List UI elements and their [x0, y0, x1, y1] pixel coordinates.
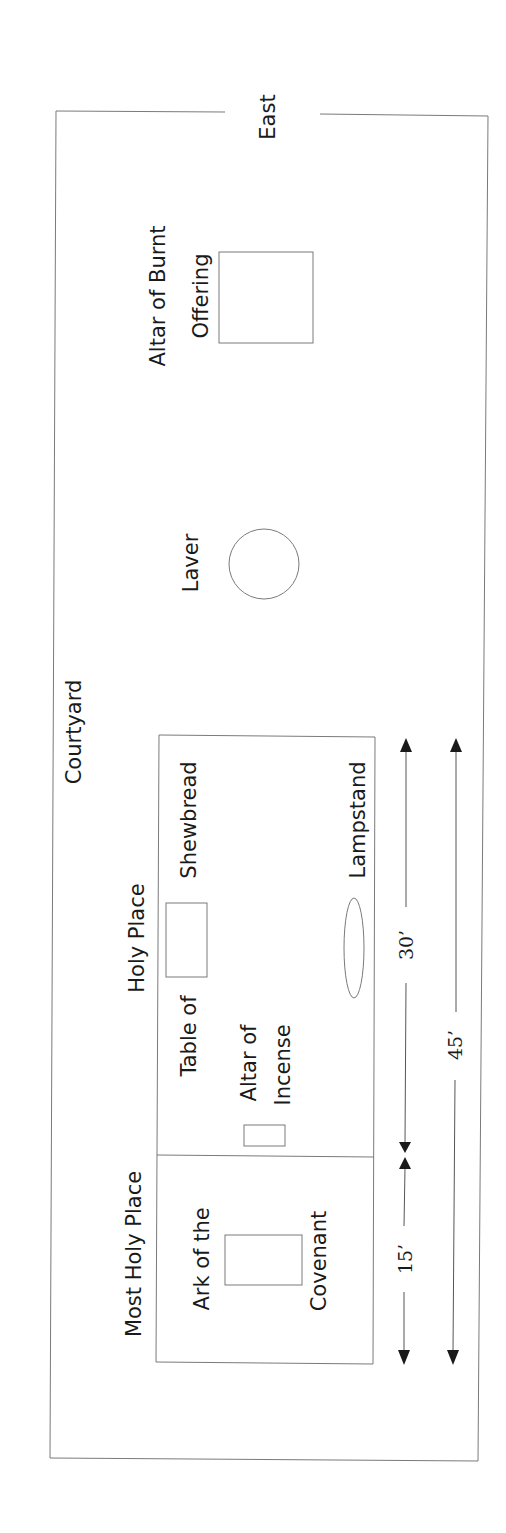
most-holy-place-label: Most Holy Place	[122, 1171, 146, 1337]
arrow-up-icon	[450, 738, 462, 752]
lampstand-ellipse	[344, 898, 364, 998]
altar-of-incense: Altar of Incense	[237, 1024, 295, 1146]
arrow-down-icon	[398, 1350, 410, 1365]
ark-box	[225, 1235, 302, 1285]
courtyard-label: Courtyard	[62, 680, 86, 785]
lampstand-label: Lampstand	[346, 761, 370, 878]
altar-burnt-offering-box	[219, 252, 313, 343]
arrow-up-icon	[400, 738, 412, 752]
table-label-line1: Table of	[177, 995, 201, 1078]
arrow-down-icon	[447, 1350, 459, 1365]
ark-of-the-covenant: Ark of the Covenant	[190, 1207, 331, 1311]
ark-label-line2: Covenant	[307, 1211, 331, 1312]
dimension-45-label: 45’	[444, 1030, 466, 1060]
dimension-30-label: 30’	[395, 930, 417, 960]
table-of-shewbread: Table of Shewbread	[166, 761, 207, 1077]
veil-divider	[157, 1155, 374, 1157]
laver-label: Laver	[179, 533, 203, 592]
arrow-down-icon	[399, 1142, 411, 1153]
ark-label-line1: Ark of the	[190, 1207, 214, 1310]
dimension-15-label: 15’	[394, 1244, 416, 1274]
altar-incense-label-line1: Altar of	[237, 1024, 261, 1101]
altar-of-burnt-offering: Altar of Burnt Offering	[146, 225, 313, 366]
holy-place-label: Holy Place	[125, 883, 149, 992]
altar-incense-label-line2: Incense	[271, 1024, 295, 1105]
dimension-30ft: 30’	[395, 738, 417, 1153]
courtyard-boundary	[50, 111, 488, 1461]
lampstand: Lampstand	[344, 761, 370, 998]
laver-circle	[229, 529, 299, 599]
altar-of-incense-box	[244, 1125, 285, 1146]
table-label-line2: Shewbread	[177, 761, 201, 878]
tabernacle-diagram: East Altar of Burnt Offering Laver Court…	[0, 0, 506, 1533]
east-label: East	[256, 94, 280, 139]
arrow-up-icon	[399, 1157, 411, 1169]
altar-burnt-offering-label-line2: Offering	[189, 253, 213, 338]
laver: Laver	[179, 529, 299, 599]
table-of-shewbread-box	[166, 903, 207, 977]
altar-burnt-offering-label-line1: Altar of Burnt	[146, 225, 170, 366]
dimension-45ft: 45’	[444, 738, 466, 1365]
dimension-15ft: 15’	[394, 1157, 416, 1365]
